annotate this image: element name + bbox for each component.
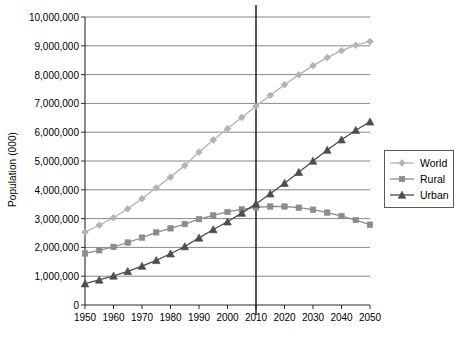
marker-square bbox=[168, 226, 173, 231]
y-tick-label: 2,000,000 bbox=[35, 242, 80, 253]
marker-square bbox=[310, 207, 315, 212]
x-tick-label: 1950 bbox=[74, 312, 96, 323]
series-rural bbox=[82, 204, 372, 256]
marker-square bbox=[268, 204, 273, 209]
marker-square bbox=[339, 213, 344, 218]
data-point-diamond bbox=[338, 47, 345, 54]
data-point-square bbox=[296, 205, 301, 210]
legend-item-rural: Rural bbox=[389, 171, 447, 187]
data-point-square bbox=[339, 213, 344, 218]
data-point-square bbox=[353, 217, 358, 222]
marker-square bbox=[111, 244, 116, 249]
data-point-square bbox=[82, 251, 87, 256]
marker-triangle bbox=[181, 243, 189, 250]
data-point-square bbox=[97, 248, 102, 253]
marker-triangle bbox=[338, 136, 346, 143]
data-point-triangle bbox=[167, 250, 175, 257]
marker-square bbox=[353, 217, 358, 222]
data-point-square bbox=[125, 240, 130, 245]
y-tick-label: 0 bbox=[73, 300, 79, 311]
x-tick-label: 2040 bbox=[330, 312, 352, 323]
marker-triangle bbox=[138, 262, 146, 269]
y-tick-label: 6,000,000 bbox=[35, 127, 80, 138]
population-line-chart: Population (000) 01,000,0002,000,0003,00… bbox=[0, 0, 460, 339]
marker-triangle bbox=[167, 250, 175, 257]
marker-diamond bbox=[96, 222, 103, 229]
marker-square bbox=[139, 235, 144, 240]
data-point-triangle bbox=[252, 200, 260, 207]
marker-square bbox=[97, 248, 102, 253]
marker-square bbox=[399, 176, 404, 181]
data-point-triangle bbox=[195, 234, 203, 241]
data-point-square bbox=[399, 176, 404, 181]
marker-diamond bbox=[324, 54, 331, 61]
x-tick-label: 2050 bbox=[359, 312, 381, 323]
legend-label: Rural bbox=[420, 173, 445, 185]
series-world bbox=[82, 38, 374, 235]
data-point-diamond bbox=[399, 160, 406, 167]
marker-triangle bbox=[323, 146, 331, 153]
legend-marker-diamond-icon bbox=[389, 157, 415, 169]
x-tick-label: 1980 bbox=[159, 312, 181, 323]
y-tick-label: 8,000,000 bbox=[35, 69, 80, 80]
data-point-triangle bbox=[138, 262, 146, 269]
marker-square bbox=[296, 205, 301, 210]
y-axis-title: Population (000) bbox=[2, 0, 22, 339]
y-tick-label: 3,000,000 bbox=[35, 213, 80, 224]
marker-diamond bbox=[338, 47, 345, 54]
marker-triangle bbox=[195, 234, 203, 241]
y-tick-label: 1,000,000 bbox=[35, 271, 80, 282]
legend-item-world: World bbox=[389, 155, 447, 171]
x-tick-label: 1960 bbox=[102, 312, 124, 323]
data-point-square bbox=[139, 235, 144, 240]
marker-square bbox=[182, 221, 187, 226]
y-tick-label: 4,000,000 bbox=[35, 184, 80, 195]
marker-square bbox=[154, 230, 159, 235]
data-point-triangle bbox=[366, 118, 374, 125]
data-point-diamond bbox=[310, 62, 317, 69]
marker-diamond bbox=[367, 38, 374, 45]
data-point-square bbox=[310, 207, 315, 212]
marker-square bbox=[225, 209, 230, 214]
data-point-triangle bbox=[181, 243, 189, 250]
data-point-triangle bbox=[152, 257, 160, 264]
marker-square bbox=[125, 240, 130, 245]
marker-square bbox=[82, 251, 87, 256]
marker-triangle bbox=[152, 257, 160, 264]
marker-triangle bbox=[209, 226, 217, 233]
x-tick-label: 1970 bbox=[131, 312, 153, 323]
legend-marker-square-icon bbox=[389, 173, 415, 185]
data-point-square bbox=[268, 204, 273, 209]
data-point-triangle bbox=[209, 226, 217, 233]
data-point-triangle bbox=[352, 126, 360, 133]
data-point-diamond bbox=[367, 38, 374, 45]
legend-marker-triangle-icon bbox=[389, 189, 415, 201]
marker-square bbox=[211, 213, 216, 218]
marker-diamond bbox=[310, 62, 317, 69]
x-tick-label: 2020 bbox=[273, 312, 295, 323]
y-tick-label: 7,000,000 bbox=[35, 98, 80, 109]
data-point-square bbox=[111, 244, 116, 249]
data-point-square bbox=[325, 210, 330, 215]
marker-square bbox=[282, 204, 287, 209]
marker-triangle bbox=[352, 126, 360, 133]
x-tick-label: 1990 bbox=[188, 312, 210, 323]
data-point-square bbox=[367, 222, 372, 227]
series-urban bbox=[81, 118, 374, 287]
data-point-square bbox=[196, 216, 201, 221]
data-point-square bbox=[154, 230, 159, 235]
data-point-diamond bbox=[82, 229, 89, 236]
x-tick-label: 2010 bbox=[245, 312, 267, 323]
marker-diamond bbox=[399, 160, 406, 167]
y-tick-label: 9,000,000 bbox=[35, 40, 80, 51]
data-point-triangle bbox=[338, 136, 346, 143]
y-tick-label: 10,000,000 bbox=[29, 12, 79, 23]
marker-diamond bbox=[82, 229, 89, 236]
data-point-triangle bbox=[323, 146, 331, 153]
marker-square bbox=[325, 210, 330, 215]
chart-legend: WorldRuralUrban bbox=[384, 150, 454, 208]
legend-label: Urban bbox=[420, 189, 449, 201]
legend-label: World bbox=[420, 157, 447, 169]
marker-square bbox=[367, 222, 372, 227]
legend-item-urban: Urban bbox=[389, 187, 447, 203]
